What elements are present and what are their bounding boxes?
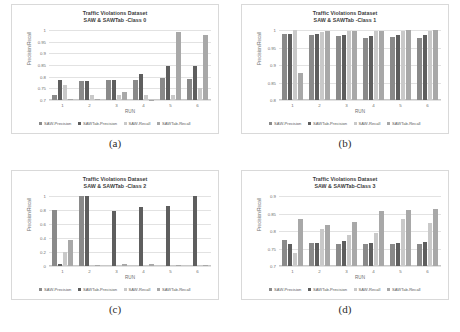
bar [171,95,176,100]
legend-item: SAWTab-Recall [157,287,190,292]
legend-swatch-icon [124,288,127,291]
y-axis-label: Precision/Recall [27,32,32,65]
legend-label: SAWTab-Recall [392,121,421,126]
bar [203,265,208,266]
x-axis-tick: 3 [345,103,347,108]
bar-group: 3 [103,196,130,266]
y-axis-tick: 0.8 [270,229,276,234]
bar [198,88,203,100]
bars-container: 0.90.850.80.750.7123456 [279,196,441,266]
y-axis-tick: 0.75 [38,86,46,91]
x-axis-label: RUN [279,109,441,114]
x-axis-tick: 3 [345,269,347,274]
bar [315,243,320,266]
bar-group: 4 [360,30,387,100]
bar [352,31,357,100]
bar [401,219,406,266]
legend-label: SAWTab-Recall [162,121,191,126]
bar [112,80,117,100]
chart-legend-d: SAW-PrecisionSAWTab-PrecisionSAW-RecallS… [248,287,442,292]
gridline [279,100,441,101]
y-axis-tick: 0.95 [268,45,276,50]
plot-area-b: 10.950.90.850.8123456 [279,30,441,100]
bar-group: 1 [49,196,76,266]
bar-group: 3 [103,30,130,100]
bar-group: 2 [76,30,103,100]
legend-item: SAWTab-Precision [308,287,347,292]
legend-swatch-icon [308,122,311,125]
x-axis-tick: 6 [426,103,428,108]
bar [379,31,384,100]
legend-label: SAWTab-Recall [392,287,421,292]
legend-item: SAW-Recall [124,121,150,126]
bar [112,211,117,266]
bar [423,242,428,267]
x-axis-tick: 5 [169,269,171,274]
bar [396,35,401,100]
chart-title-line2: SAW & SAWTab -Class 1 [242,17,448,24]
bar [58,80,63,100]
chart-title-line1: Traffic Violations Dataset [12,10,218,17]
legend-item: SAW-Precision [269,121,301,126]
plot-frame-d: Traffic Violations Dataset SAW & SAWTab-… [241,170,449,300]
bars-container: 10.950.90.850.8123456 [279,30,441,100]
y-axis-tick: 0.75 [268,246,276,251]
bar [176,32,181,100]
y-axis-label: Precision/Recall [257,32,262,65]
legend-swatch-icon [269,122,272,125]
bar [52,210,57,266]
x-axis-label: RUN [279,275,441,280]
gridline [49,266,211,267]
legend-swatch-icon [39,288,42,291]
bar [417,38,422,100]
y-axis-tick: 0.85 [38,63,46,68]
bar-group: 4 [130,30,157,100]
bar-group: 6 [184,196,211,266]
x-axis-tick: 1 [61,269,63,274]
y-axis-tick: 0.2 [40,250,46,255]
x-axis-tick: 4 [372,269,374,274]
bar [95,99,100,100]
bar [315,34,320,100]
figure-sheet: Traffic Violations Dataset SAW & SAWTab … [0,0,460,332]
legend-swatch-icon [78,288,81,291]
bar [282,240,287,266]
chart-legend-a: SAW-PrecisionSAWTab-PrecisionSAW-RecallS… [18,121,212,126]
plot-frame-b: Traffic Violations Dataset SAW & SAWTab … [241,4,449,134]
bar [336,244,341,266]
x-axis-tick: 6 [426,269,428,274]
y-axis-tick: 0.9 [270,194,276,199]
y-axis-tick: 0.8 [40,74,46,79]
bar [352,222,357,266]
legend-item: SAWTab-Precision [78,287,117,292]
bar [106,80,111,100]
legend-swatch-icon [124,122,127,125]
bar [293,253,298,266]
bar [309,35,314,100]
bar [193,196,198,266]
x-axis-tick: 3 [115,103,117,108]
legend-label: SAW-Recall [129,287,151,292]
bar [58,264,63,266]
x-axis-tick: 5 [169,103,171,108]
plot-frame-a: Traffic Violations Dataset SAW & SAWTab … [11,4,219,134]
bar [133,80,138,100]
bar-group: 1 [279,30,306,100]
chart-title-line1: Traffic Violations Dataset [242,176,448,183]
legend-label: SAW-Precision [44,287,71,292]
chart-title-line2: SAW & SAWTab -Class 2 [12,183,218,190]
y-axis-tick: 0.4 [40,236,46,241]
bar [85,81,90,100]
legend-item: SAW-Precision [269,287,301,292]
x-axis-tick: 2 [318,103,320,108]
bar [298,73,303,100]
chart-title-line2: SAW & SAWTab -Class 0 [12,17,218,24]
bar [336,36,341,100]
legend-swatch-icon [269,288,272,291]
y-axis-tick: 1 [274,28,276,33]
bar [433,30,438,100]
bar [68,240,73,266]
bar-group: 4 [360,196,387,266]
bar-group: 5 [387,196,414,266]
legend-item: SAWTab-Recall [387,121,420,126]
